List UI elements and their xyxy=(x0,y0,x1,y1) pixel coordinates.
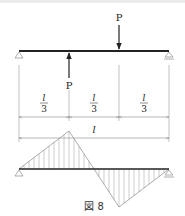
load-down-label: P xyxy=(116,12,123,23)
svg-text:l: l xyxy=(43,93,46,103)
dim-segment-3: l 3 xyxy=(140,93,148,114)
dim-total-label: l xyxy=(92,124,95,135)
moment-diagram xyxy=(15,131,174,207)
pin-support-icon xyxy=(15,52,23,58)
moment-hatch-negative xyxy=(99,169,164,207)
roller-support-icon xyxy=(164,52,174,59)
moment-hatch-positive xyxy=(24,131,89,169)
load-up-label: P xyxy=(66,80,73,91)
svg-text:3: 3 xyxy=(91,104,97,114)
dim-segment-1: l 3 xyxy=(40,93,48,114)
svg-text:3: 3 xyxy=(41,104,47,114)
beam-diagram: P P l 3 l 3 l 3 l xyxy=(0,0,185,216)
svg-text:l: l xyxy=(143,93,146,103)
figure-caption: 図 8 xyxy=(84,201,104,212)
dim-segment-2: l 3 xyxy=(90,93,98,114)
svg-text:3: 3 xyxy=(141,104,147,114)
svg-text:l: l xyxy=(93,93,96,103)
